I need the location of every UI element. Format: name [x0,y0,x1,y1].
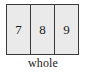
place-value-figure: 7 8 9 whole [0,0,86,74]
figure-caption: whole [0,56,86,70]
digit-value-hundreds: 7 [15,23,22,37]
digit-cell-ones: 9 [54,5,78,54]
digit-value-ones: 9 [63,23,70,37]
digit-cell-hundreds: 7 [7,5,30,54]
whole-number-box: 7 8 9 [6,4,79,55]
digit-cell-tens: 8 [30,5,54,54]
digit-value-tens: 8 [39,23,46,37]
